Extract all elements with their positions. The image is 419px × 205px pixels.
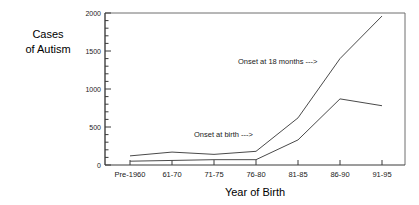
y-tick-label: 2000	[85, 10, 101, 17]
x-tick-label: 81-85	[288, 170, 307, 179]
x-tick-label: 91-95	[372, 170, 391, 179]
y-tick-label: 1000	[85, 86, 101, 93]
y-axis-tick-labels: 0500100015002000	[85, 10, 101, 169]
chart-svg: 0500100015002000 Pre-196061-7071-7576-80…	[0, 0, 419, 205]
annotation-onset-at-birth: Onset at birth --->	[194, 130, 254, 139]
x-axis-title: Year of Birth	[225, 186, 285, 198]
x-tick-label: 71-75	[204, 170, 223, 179]
x-tick-label: Pre-1960	[115, 170, 146, 179]
autism-cases-line-chart: 0500100015002000 Pre-196061-7071-7576-80…	[0, 0, 419, 205]
plot-frame	[105, 13, 405, 165]
series-line-onset-18-months	[130, 16, 382, 156]
x-tick-label: 86-90	[330, 170, 349, 179]
data-series-lines	[130, 16, 382, 161]
series-line-onset-at-birth	[130, 99, 382, 161]
y-axis-ticks	[105, 13, 111, 165]
y-tick-label: 0	[97, 162, 101, 169]
y-axis-title-line2: of Autism	[25, 43, 70, 55]
y-axis-title-line1: Cases	[32, 28, 64, 40]
x-axis-tick-labels: Pre-196061-7071-7576-8081-8586-9091-95	[115, 170, 392, 179]
y-tick-label: 1500	[85, 48, 101, 55]
x-tick-label: 61-70	[162, 170, 181, 179]
x-tick-label: 76-80	[246, 170, 265, 179]
y-tick-label: 500	[89, 124, 101, 131]
annotation-onset-18-months: Onset at 18 months --->	[238, 57, 318, 66]
